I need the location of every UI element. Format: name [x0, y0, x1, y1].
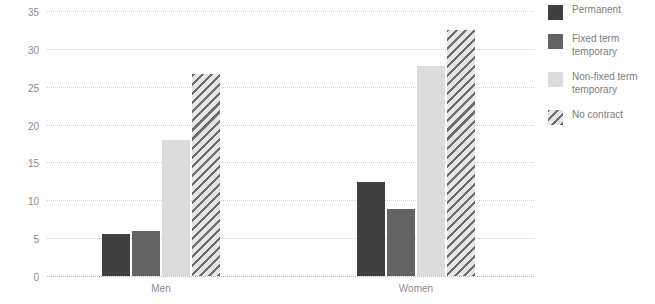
legend-label: Non-fixed term temporary — [572, 71, 638, 96]
legend-label: No contract — [572, 109, 623, 122]
bar — [192, 74, 220, 276]
bar — [447, 30, 475, 276]
y-axis-tick-label: 30 — [28, 44, 39, 55]
legend-item[interactable]: Non-fixed term temporary — [548, 71, 653, 96]
chart-legend: PermanentFixed term temporaryNon-fixed t… — [548, 4, 653, 138]
legend-swatch-icon — [548, 110, 563, 125]
bar — [357, 182, 385, 276]
x-axis-category-label: Women — [399, 283, 433, 294]
gridline: 0 — [47, 276, 534, 277]
y-axis-tick-label: 35 — [28, 7, 39, 18]
plot-area: 05101520253035 — [47, 11, 534, 276]
bar-group — [357, 11, 475, 276]
y-axis-tick-label: 10 — [28, 196, 39, 207]
y-axis-tick-label: 15 — [28, 158, 39, 169]
legend-label: Permanent — [572, 4, 621, 17]
bar-chart: Percent 05101520253035 PermanentFixed te… — [0, 0, 655, 304]
bar — [102, 234, 130, 276]
legend-swatch-icon — [548, 34, 563, 49]
x-axis-category-label: Men — [151, 283, 170, 294]
bar — [162, 140, 190, 276]
legend-item[interactable]: No contract — [548, 109, 653, 125]
y-axis-tick-label: 20 — [28, 120, 39, 131]
y-axis-tick-label: 5 — [33, 234, 39, 245]
legend-swatch-icon — [548, 72, 563, 87]
bar — [387, 209, 415, 276]
y-axis-tick-label: 25 — [28, 82, 39, 93]
y-axis-tick-label: 0 — [33, 272, 39, 283]
legend-item[interactable]: Fixed term temporary — [548, 33, 653, 58]
legend-item[interactable]: Permanent — [548, 4, 653, 20]
legend-label: Fixed term temporary — [572, 33, 619, 58]
bar — [417, 66, 445, 276]
bar — [132, 231, 160, 276]
bar-group — [102, 11, 220, 276]
legend-swatch-icon — [548, 5, 563, 20]
